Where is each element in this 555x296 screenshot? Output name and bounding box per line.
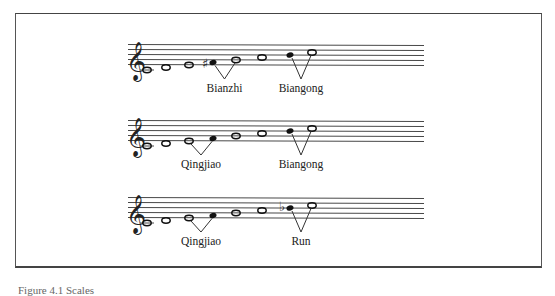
interval-label: Bianzhi: [207, 82, 243, 94]
staff-line: [128, 50, 424, 51]
interval-label: Qingjiao: [181, 158, 221, 171]
v-bracket: [292, 56, 311, 80]
whole-note: [308, 126, 316, 131]
whole-note: [258, 208, 266, 213]
staff-line: [128, 65, 424, 66]
staff-line: [128, 208, 424, 209]
staff-line: [128, 60, 424, 61]
v-bracket: [191, 219, 212, 233]
whole-note: [308, 50, 316, 55]
staff-line: [128, 45, 424, 46]
filled-note-head: [286, 51, 295, 58]
treble-clef-icon: 𝄞: [126, 193, 146, 235]
filled-note-head: [286, 127, 295, 134]
v-bracket: [292, 209, 311, 233]
whole-note: [258, 131, 266, 136]
treble-clef-icon: 𝄞: [126, 40, 146, 82]
whole-note: [162, 65, 170, 70]
flat-icon: ♭: [279, 199, 285, 214]
interval-label: Biangong: [279, 82, 324, 95]
filled-note-head: [286, 204, 295, 211]
whole-note: [162, 141, 170, 146]
staff-line: [128, 121, 424, 122]
staff-line: [128, 131, 424, 132]
staff-line: [128, 126, 424, 127]
sharp-icon: ♯: [202, 56, 208, 71]
whole-note: [308, 203, 316, 208]
figure-caption: Figure 4.1 Scales: [18, 284, 94, 296]
staff-line: [128, 55, 424, 56]
staff-line: [128, 218, 424, 219]
treble-clef-icon: 𝄞: [126, 116, 146, 158]
interval-label: Biangong: [279, 158, 324, 171]
v-bracket: [292, 132, 311, 156]
interval-label: Qingjiao: [181, 235, 221, 248]
v-bracket: [215, 63, 235, 79]
staff-line: [128, 213, 424, 214]
staff-line: [128, 198, 424, 199]
interval-label: Run: [291, 235, 310, 247]
staff-line: [128, 141, 424, 142]
whole-note: [258, 55, 266, 60]
staff-line: [128, 136, 424, 137]
staff-line: [128, 203, 424, 204]
whole-note: [162, 218, 170, 223]
v-bracket: [191, 142, 212, 156]
